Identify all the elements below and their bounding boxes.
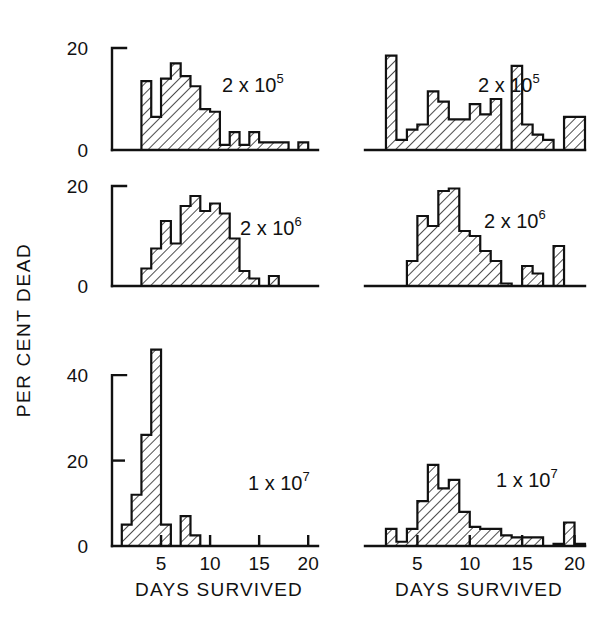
x-axis-title: DAYS SURVIVED [395, 579, 563, 600]
histogram-bar-group-fill [386, 56, 501, 150]
dose-mantissa: 2 x 10 [484, 210, 538, 232]
dose-exponent: 6 [538, 207, 545, 222]
dose-mantissa: 1 x 10 [248, 472, 302, 494]
histogram-bar-group-fill [554, 523, 585, 546]
x-axis-title: DAYS SURVIVED [135, 579, 303, 600]
x-tick-label: 10 [459, 553, 480, 574]
dose-label-bottom-right: 1 x 107 [496, 466, 558, 491]
y-tick-label: 0 [77, 276, 88, 297]
x-tick-label: 20 [298, 553, 319, 574]
dose-mantissa: 1 x 10 [496, 469, 550, 491]
dose-label-middle-left: 2 x 106 [240, 214, 302, 239]
dose-exponent: 5 [532, 71, 539, 86]
panel-middle-right: 2 x 106 [365, 189, 585, 287]
histogram-bar-group-fill [122, 350, 171, 546]
dose-exponent: 5 [276, 71, 283, 86]
dose-mantissa: 2 x 10 [240, 217, 294, 239]
dose-exponent: 7 [550, 466, 557, 481]
dose-exponent: 7 [302, 469, 309, 484]
dose-label-bottom-left: 1 x 107 [248, 469, 310, 494]
y-axis-line [112, 186, 126, 286]
panel-bottom-left: 402005101520DAYS SURVIVED1 x 107 [67, 350, 319, 600]
y-tick-label: 0 [77, 536, 88, 557]
panel-bottom-right: 5101520DAYS SURVIVED1 x 107 [365, 465, 585, 600]
x-tick-label: 5 [412, 553, 423, 574]
histogram-bar-group-fill [564, 117, 585, 150]
histogram-bar-group-fill [269, 276, 279, 286]
y-tick-label: 20 [67, 176, 88, 197]
y-axis-line [112, 48, 126, 150]
histogram-bar-group-fill [298, 142, 308, 150]
histogram-figure: PER CENT DEAD 2002 x 1052 x 1052002 x 10… [0, 0, 612, 620]
histogram-bar-group-fill [554, 246, 564, 286]
dose-label-top-left: 2 x 105 [222, 71, 284, 96]
x-tick-label: 20 [564, 553, 585, 574]
panel-middle-left: 2002 x 106 [67, 176, 318, 297]
panel-top-right: 2 x 105 [365, 56, 585, 150]
panel-top-left: 2002 x 105 [67, 38, 318, 161]
x-tick-label: 15 [512, 553, 533, 574]
x-tick-label: 10 [200, 553, 221, 574]
dose-mantissa: 2 x 10 [478, 74, 532, 96]
x-tick-label: 5 [156, 553, 167, 574]
figure-panel-grid: PER CENT DEAD 2002 x 1052 x 1052002 x 10… [0, 0, 612, 620]
y-tick-label: 20 [67, 38, 88, 59]
x-tick-label: 15 [249, 553, 270, 574]
y-axis-title: PER CENT DEAD [13, 243, 34, 418]
dose-label-top-right: 2 x 105 [478, 71, 540, 96]
y-tick-label: 20 [67, 451, 88, 472]
dose-label-middle-right: 2 x 106 [484, 207, 546, 232]
y-tick-label: 0 [77, 140, 88, 161]
dose-exponent: 6 [294, 214, 301, 229]
y-tick-label: 40 [67, 365, 88, 386]
dose-mantissa: 2 x 10 [222, 74, 276, 96]
